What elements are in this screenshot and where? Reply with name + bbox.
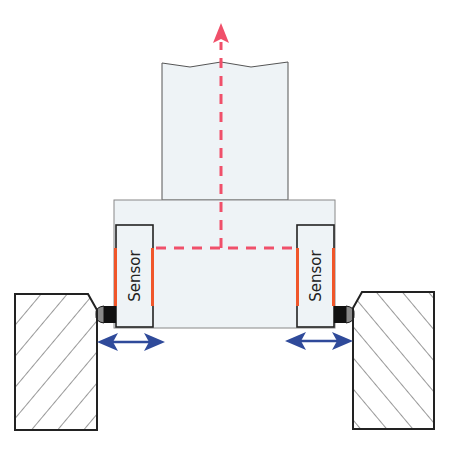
arrow-up-icon bbox=[213, 23, 229, 43]
column-shaft bbox=[162, 62, 288, 200]
right-sensor: Sensor bbox=[296, 225, 335, 327]
left-hatched-block bbox=[15, 294, 97, 430]
sensor-strip bbox=[114, 248, 117, 306]
left-sensor-label: Sensor bbox=[126, 249, 144, 301]
sensor-diagram: Sensor Sensor bbox=[0, 0, 450, 451]
right-hatched-block bbox=[353, 292, 434, 429]
right-contact bbox=[334, 306, 354, 323]
double-arrow-horizontal-icon bbox=[97, 333, 165, 351]
sensor-strip bbox=[332, 248, 335, 306]
sensor-strip bbox=[296, 248, 299, 306]
sensor-strip bbox=[151, 248, 154, 306]
right-sensor-label: Sensor bbox=[307, 249, 325, 301]
double-arrow-horizontal-icon bbox=[285, 332, 353, 350]
left-contact bbox=[96, 306, 116, 323]
left-sensor: Sensor bbox=[114, 225, 154, 327]
